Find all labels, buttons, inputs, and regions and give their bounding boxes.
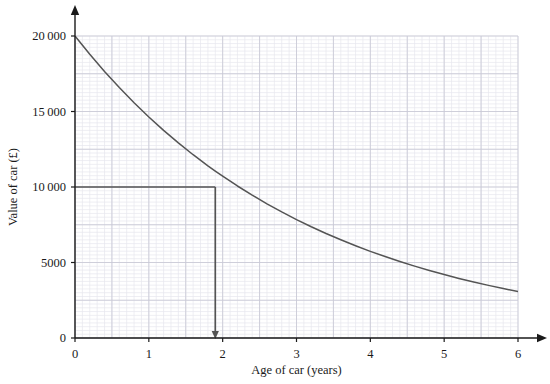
x-axis-tick-label: 2 bbox=[220, 347, 226, 361]
x-axis-tick-label: 4 bbox=[367, 347, 374, 361]
y-axis-tick-label: 5000 bbox=[41, 256, 66, 270]
y-axis-tick-label: 10 000 bbox=[32, 180, 66, 194]
x-axis-tick-label: 6 bbox=[515, 347, 521, 361]
x-axis-tick-label: 3 bbox=[293, 347, 299, 361]
value-of-car-line-chart: 0123456 0500010 00015 00020 000 Age of c… bbox=[0, 0, 550, 384]
y-axis-tick-label: 0 bbox=[60, 331, 66, 345]
y-axis-title: Value of car (£) bbox=[6, 148, 20, 226]
x-axis-tick-label: 1 bbox=[146, 347, 152, 361]
x-axis-tick-label: 5 bbox=[441, 347, 447, 361]
y-axis-tick-label: 15 000 bbox=[32, 105, 66, 119]
x-axis-tick-label: 0 bbox=[72, 347, 78, 361]
y-axis-tick-label: 20 000 bbox=[32, 29, 66, 43]
chart-figure: 0123456 0500010 00015 00020 000 Age of c… bbox=[0, 0, 550, 384]
x-axis-title: Age of car (years) bbox=[251, 363, 342, 377]
